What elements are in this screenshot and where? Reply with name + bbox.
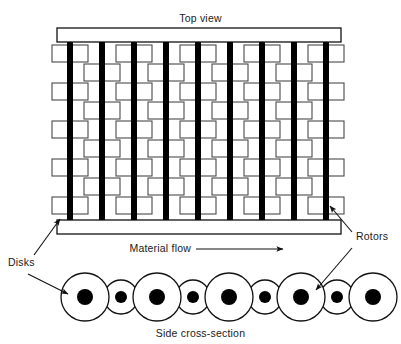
rotor-bar xyxy=(67,42,73,220)
small-disk-hub xyxy=(259,291,271,303)
rotor-hub xyxy=(365,289,381,305)
disks-callout-arrow-bottom xyxy=(28,274,68,294)
rotor-hub xyxy=(149,289,165,305)
rotor-hub xyxy=(77,289,93,305)
rotor-bar xyxy=(259,42,265,220)
rotor-hub xyxy=(293,289,309,305)
rotor-bar xyxy=(131,42,137,220)
rotor-bar xyxy=(163,42,169,220)
rotor-bar xyxy=(227,42,233,220)
rotor-bar xyxy=(323,42,329,220)
small-disk-hub xyxy=(331,291,343,303)
disks-callout-arrow-top xyxy=(34,219,60,255)
top-frame-bar xyxy=(57,28,341,42)
disks-label: Disks xyxy=(8,256,35,268)
small-disk-hub xyxy=(115,291,127,303)
side-cross-section-circles xyxy=(61,273,397,321)
rotors-label: Rotors xyxy=(356,230,388,242)
material-flow-label: Material flow xyxy=(129,242,191,254)
side-cross-section-label: Side cross-section xyxy=(156,327,245,339)
top-view-label: Top view xyxy=(179,12,222,24)
rotor-hub xyxy=(221,289,237,305)
rotor-bar xyxy=(291,42,297,220)
diagram-canvas: Top view Material flow Disks Rotors Side… xyxy=(0,0,401,344)
mixer-schematic: Top view Material flow Disks Rotors Side… xyxy=(0,0,401,344)
small-disk-hub xyxy=(187,291,199,303)
rotor-bar xyxy=(195,42,201,220)
bottom-frame-bar xyxy=(57,220,341,234)
rotor-bar xyxy=(99,42,105,220)
